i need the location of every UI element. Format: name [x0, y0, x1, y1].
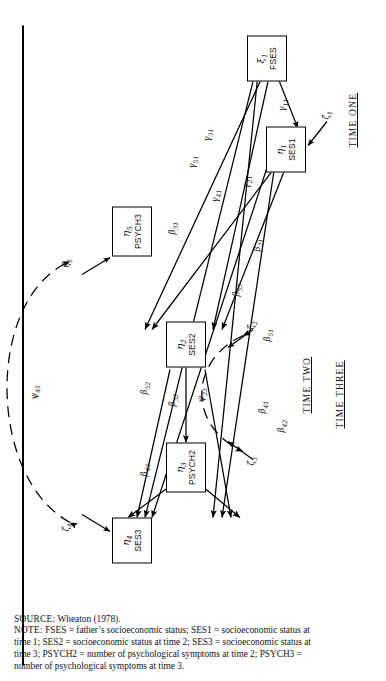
node-psych3-symbol: η5: [120, 226, 134, 236]
label-beta21: β21: [253, 238, 264, 251]
label-beta42: β42: [277, 419, 288, 432]
figure-caption: SOURCE: Wheaton (1978). NOTE: FSES = fat…: [14, 614, 314, 673]
node-fses-symbol: ξ1: [255, 53, 269, 63]
label-zeta1: ζ1: [322, 110, 333, 119]
label-gamma51: γ51: [188, 155, 199, 168]
label-beta31: β31: [168, 221, 179, 234]
label-beta52: β52: [140, 381, 151, 394]
caption-note-label: NOTE:: [14, 625, 43, 635]
path-zeta5: [82, 257, 110, 274]
label-zeta3: ζ3: [247, 456, 258, 465]
label-beta32: β32: [168, 393, 179, 406]
label-beta51: β51: [263, 328, 274, 341]
node-psych3-label: PSYCH3: [134, 213, 144, 248]
label-zeta5: ζ5: [62, 258, 73, 267]
node-psych3-inner: η5 PSYCH3: [113, 207, 151, 255]
label-gamma11: γ11: [278, 98, 289, 111]
node-ses3-inner: η4 SES3: [113, 518, 151, 562]
node-fses[interactable]: ξ1 FSES: [247, 35, 287, 81]
label-psi23: ψ23: [197, 387, 208, 402]
node-ses1-symbol: η1: [274, 144, 288, 154]
node-ses2-symbol: η2: [174, 339, 188, 349]
node-ses3[interactable]: η4 SES3: [112, 517, 152, 563]
node-fses-inner: ξ1 FSES: [248, 36, 286, 80]
node-ses2-inner: η2 SES2: [167, 322, 205, 366]
node-ses1[interactable]: η1 SES1: [266, 126, 306, 172]
path-zeta1: [308, 121, 327, 145]
node-ses2-label: SES2: [188, 333, 198, 356]
node-ses3-symbol: η4: [120, 535, 134, 545]
label-gamma41: γ41: [211, 189, 222, 202]
node-ses1-inner: η1 SES1: [267, 127, 305, 171]
plate-rule: [22, 25, 24, 665]
label-zeta4: ζ4: [62, 522, 73, 531]
time-label-two: TIME TWO: [302, 356, 312, 413]
caption-source-text: Wheaton (1978).: [55, 614, 120, 624]
label-beta43: β43: [140, 463, 151, 476]
label-beta41: β41: [258, 400, 269, 413]
node-ses1-label: SES1: [288, 138, 298, 161]
node-psych2[interactable]: η3 PSYCH2: [166, 442, 206, 492]
label-beta53: β53: [232, 283, 243, 296]
caption-source-line: SOURCE: Wheaton (1978).: [14, 614, 314, 626]
time-label-three: TIME THREE: [335, 360, 345, 428]
label-psi45: ψ45: [30, 384, 41, 399]
label-gamma21: γ21: [242, 175, 253, 188]
node-psych2-symbol: η3: [174, 462, 188, 472]
time-label-one: TIME ONE: [348, 92, 358, 147]
path-diagram: η4 SES3 η5 PSYCH3 η2 SES2 η3 PSYCH2: [0, 0, 386, 681]
label-gamma31: γ31: [203, 128, 214, 141]
path-b42: [205, 369, 231, 517]
node-fses-label: FSES: [269, 47, 279, 70]
caption-note-line: NOTE: FSES = father’s socioeconomic stat…: [14, 625, 314, 673]
node-ses2[interactable]: η2 SES2: [166, 321, 206, 367]
node-psych2-label: PSYCH2: [188, 449, 198, 484]
figure-plate: η4 SES3 η5 PSYCH3 η2 SES2 η3 PSYCH2: [0, 0, 386, 681]
caption-source-label: SOURCE:: [14, 614, 55, 624]
node-psych3[interactable]: η5 PSYCH3: [112, 206, 152, 256]
node-psych2-inner: η3 PSYCH2: [167, 443, 205, 491]
path-zeta4: [82, 514, 110, 531]
caption-note-text: FSES = father’s socioeconomic status; SE…: [14, 625, 311, 671]
label-zeta2: ζ2: [247, 320, 258, 329]
node-ses3-label: SES3: [134, 529, 144, 552]
path-psi23: [202, 335, 243, 451]
